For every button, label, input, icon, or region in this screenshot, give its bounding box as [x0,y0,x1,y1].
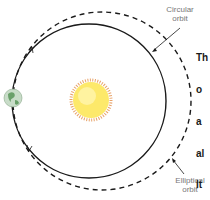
body-text-line: Th [196,53,208,64]
body-text-line: It [196,180,208,191]
circular-orbit-label-line1: Circular [161,5,199,14]
sun-icon [71,80,111,120]
orbit-diagram [0,0,210,200]
circular-orbit-label-line2: orbit [161,14,199,23]
body-text-line: a [196,117,208,128]
cropped-body-text: Th o a al It fr to th d e a [196,32,208,200]
elliptical-orbit-leader-arrow [172,158,184,174]
earth-icon [4,89,22,107]
circular-orbit-leader-arrow [152,28,180,52]
body-text-line: al [196,149,208,160]
circular-orbit-label: Circular orbit [161,5,199,23]
body-text-line: o [196,85,208,96]
